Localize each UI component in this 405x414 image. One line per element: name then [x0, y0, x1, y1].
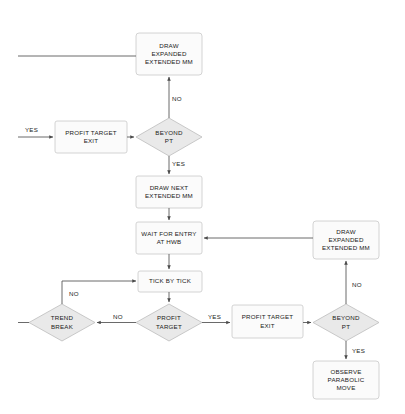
node-shape-profit-target[interactable] — [136, 304, 202, 341]
flowchart-canvas: DRAW EXPANDED EXTENDED MM PROFIT TARGET … — [0, 0, 405, 414]
node-shape-profit-target-exit-lower[interactable] — [232, 305, 303, 338]
node-shape-draw-expanded-extended-mm-right[interactable] — [313, 221, 379, 259]
node-shape-observe-parabolic-move[interactable] — [313, 361, 379, 399]
node-shape-beyond-pt-upper[interactable] — [136, 118, 202, 156]
node-shape-tick-by-tick[interactable] — [138, 271, 202, 292]
node-shape-draw-expanded-extended-mm-top[interactable] — [136, 33, 202, 75]
node-shape-wait-for-entry-at-hwb[interactable] — [136, 222, 202, 254]
node-shape-beyond-pt-lower[interactable] — [313, 304, 379, 341]
edge-trend-break-no-loop — [62, 281, 136, 304]
node-shape-draw-next-extended-mm[interactable] — [136, 176, 202, 208]
node-shape-trend-break[interactable] — [29, 304, 95, 341]
node-shape-profit-target-exit-upper[interactable] — [55, 121, 127, 153]
flowchart-connectors-layer — [0, 0, 405, 414]
